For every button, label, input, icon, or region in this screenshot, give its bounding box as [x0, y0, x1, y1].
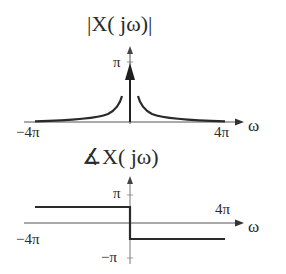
magnitude-x-tick-right: 4π	[214, 125, 229, 140]
phase-x-tick-right: 4π	[215, 202, 230, 217]
phase-x-axis-label: ω	[248, 218, 259, 235]
phase-x-axis-arrow-icon	[235, 220, 244, 227]
magnitude-x-axis-arrow-icon	[235, 119, 244, 126]
magnitude-curve-right	[138, 96, 225, 121]
plot-canvas	[0, 0, 286, 274]
phase-x-tick-left: −4π	[16, 232, 40, 247]
phase-title: ∡X( jω)	[82, 146, 159, 168]
magnitude-title: |X( jω)|	[87, 13, 152, 35]
impulse-arrow-icon	[125, 63, 135, 80]
phase-y-tick-neg-pi: −π	[101, 250, 117, 265]
magnitude-plot	[24, 46, 244, 126]
magnitude-x-axis-label: ω	[248, 117, 259, 134]
phase-y-tick-pi: π	[113, 186, 121, 201]
magnitude-x-tick-left: −4π	[16, 125, 40, 140]
magnitude-y-tick-pi: π	[113, 55, 121, 70]
magnitude-y-axis-arrow-icon	[127, 46, 133, 54]
phase-plot	[24, 176, 244, 264]
magnitude-curve-left	[35, 96, 122, 121]
phase-y-axis-arrow-icon	[127, 176, 133, 184]
